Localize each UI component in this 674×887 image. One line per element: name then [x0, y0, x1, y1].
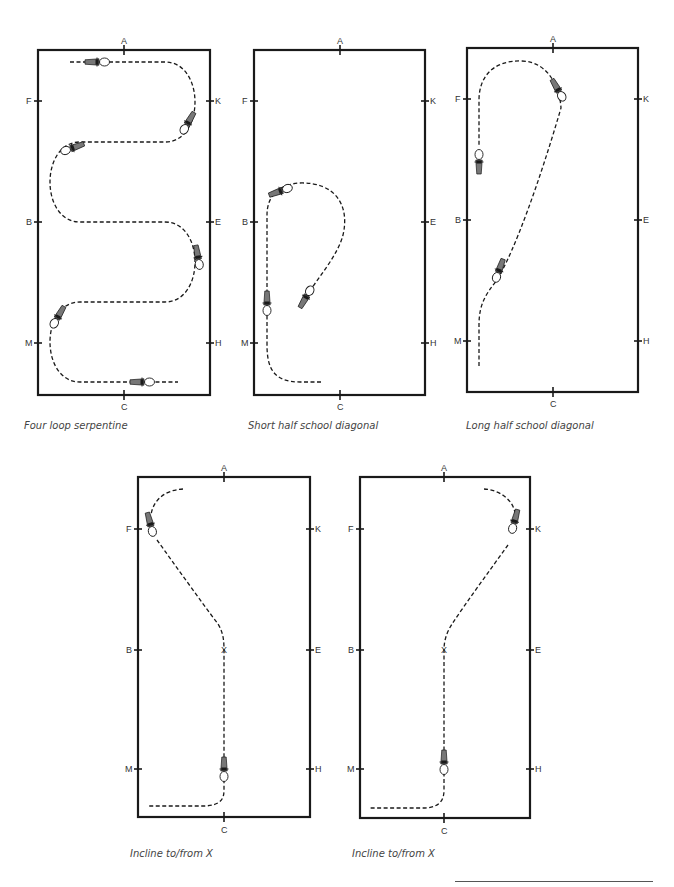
horse-topview-icon [178, 110, 198, 136]
marker-m: M [241, 338, 249, 348]
marker-a: A [337, 36, 343, 46]
caption-short-half-school-diagonal: Short half school diagonal [248, 420, 378, 431]
riding-path [267, 183, 345, 382]
horse-topview-icon [143, 511, 158, 537]
marker-e: E [643, 215, 649, 225]
horse-topview-icon [507, 508, 522, 534]
marker-k: K [643, 94, 649, 104]
marker-f: F [242, 96, 248, 106]
caption-long-half-school-diagonal: Long half school diagonal [466, 420, 594, 431]
caption-incline-to-from-x-right: Incline to/from X [352, 848, 435, 859]
marker-m: M [454, 336, 462, 346]
marker-h: H [215, 338, 222, 348]
marker-c: C [337, 402, 344, 412]
marker-k: K [430, 96, 436, 106]
arena-diagram-incline-to-from-x-right: A C X F B M K E H [347, 463, 542, 836]
horse-topview-icon [48, 304, 68, 330]
marker-e: E [215, 217, 221, 227]
marker-f: F [126, 524, 132, 534]
marker-e: E [430, 217, 436, 227]
riding-path [50, 62, 195, 382]
marker-e: E [535, 645, 541, 655]
marker-k: K [315, 524, 321, 534]
marker-b: B [126, 645, 132, 655]
marker-c: C [221, 825, 228, 835]
marker-a: A [441, 463, 447, 473]
marker-m: M [125, 764, 133, 774]
arena-diagram-short-half-school-diagonal: A C F B M K E H [241, 36, 437, 412]
marker-k: K [535, 524, 541, 534]
arena-diagram-incline-to-from-x-left: A C X F B M K E H [125, 463, 322, 835]
footer-rule [455, 881, 653, 882]
marker-k: K [215, 96, 221, 106]
horse-topview-icon [491, 258, 508, 284]
marker-b: B [348, 645, 354, 655]
arena-diagram-long-half-school-diagonal: A C F B M K E H [454, 34, 650, 409]
marker-e: E [315, 645, 321, 655]
caption-four-loop-serpentine: Four loop serpentine [24, 420, 128, 431]
horse-topview-icon [548, 77, 568, 103]
horse-topview-icon [220, 757, 229, 782]
horse-topview-icon [85, 58, 110, 67]
marker-f: F [455, 94, 461, 104]
marker-h: H [643, 336, 650, 346]
riding-path [479, 61, 561, 366]
arena-diagram-four-loop-serpentine: A C F B M K E H [25, 36, 222, 412]
marker-c: C [550, 399, 557, 409]
horse-topview-icon [268, 183, 294, 200]
marker-a: A [121, 36, 127, 46]
marker-f: F [348, 524, 354, 534]
horse-topview-icon [475, 150, 484, 175]
marker-a: A [550, 34, 556, 44]
marker-h: H [535, 764, 542, 774]
caption-incline-to-from-x-left: Incline to/from X [130, 848, 213, 859]
marker-b: B [455, 215, 461, 225]
marker-m: M [25, 338, 33, 348]
horse-topview-icon [130, 378, 155, 387]
horse-topview-icon [296, 284, 316, 310]
marker-a: A [221, 463, 227, 473]
marker-c: C [121, 402, 128, 412]
horse-topview-icon [263, 291, 272, 316]
marker-b: B [26, 217, 32, 227]
marker-b: B [242, 217, 248, 227]
marker-h: H [315, 764, 322, 774]
horse-topview-icon [59, 140, 85, 157]
marker-h: H [430, 338, 437, 348]
marker-m: M [347, 764, 355, 774]
riding-path [148, 489, 224, 806]
marker-f: F [26, 96, 32, 106]
marker-c: C [441, 826, 448, 836]
horse-topview-icon [440, 750, 449, 775]
